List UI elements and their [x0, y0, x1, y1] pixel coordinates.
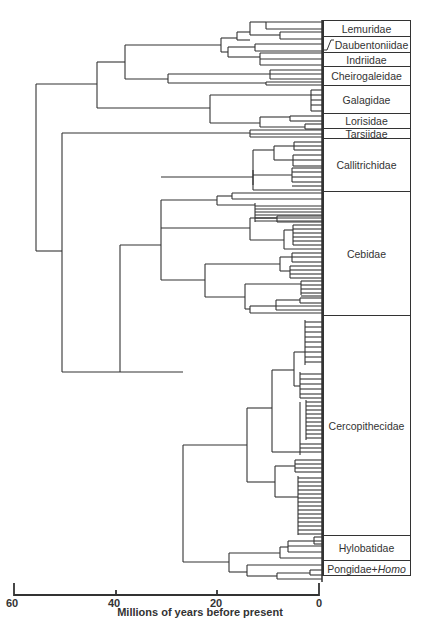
family-label-italic: Homo: [378, 563, 406, 575]
family-label: Cebidae: [347, 248, 386, 260]
family-lemuridae: Lemuridae: [322, 20, 411, 37]
family-daubentoniidae: Daubentoniidae: [322, 37, 411, 53]
family-label: Galagidae: [343, 94, 391, 106]
family-label: Daubentoniidae: [335, 39, 409, 51]
family-label: Indriidae: [346, 54, 386, 66]
family-label: Tarsiidae: [345, 128, 387, 140]
family-label: Callitrichidae: [336, 159, 396, 171]
family-label: Lorisidae: [345, 115, 388, 127]
family-label: Hylobatidae: [339, 542, 394, 554]
family-tarsiidae: Tarsiidae: [322, 129, 411, 139]
family-indriidae: Indriidae: [322, 53, 411, 67]
family-callitrichidae: Callitrichidae: [322, 139, 411, 192]
family-label: Lemuridae: [342, 23, 392, 35]
time-axis: [14, 583, 319, 595]
family-cebidae: Cebidae: [322, 192, 411, 316]
family-pongidae-homo: Pongidae+Homo: [322, 561, 411, 576]
family-hylobatidae: Hylobatidae: [322, 536, 411, 561]
family-cercopithecidae: Cercopithecidae: [322, 316, 411, 536]
family-label: Pongidae+: [327, 563, 378, 575]
family-galagidae: Galagidae: [322, 86, 411, 114]
family-cheirogaleidae: Cheirogaleidae: [322, 67, 411, 86]
tree-branches: [36, 22, 322, 579]
tick-label-60: 60: [6, 597, 18, 609]
family-label: Cheirogaleidae: [331, 70, 402, 82]
axis-title: Millions of years before present: [70, 606, 330, 618]
family-label: Cercopithecidae: [329, 420, 405, 432]
